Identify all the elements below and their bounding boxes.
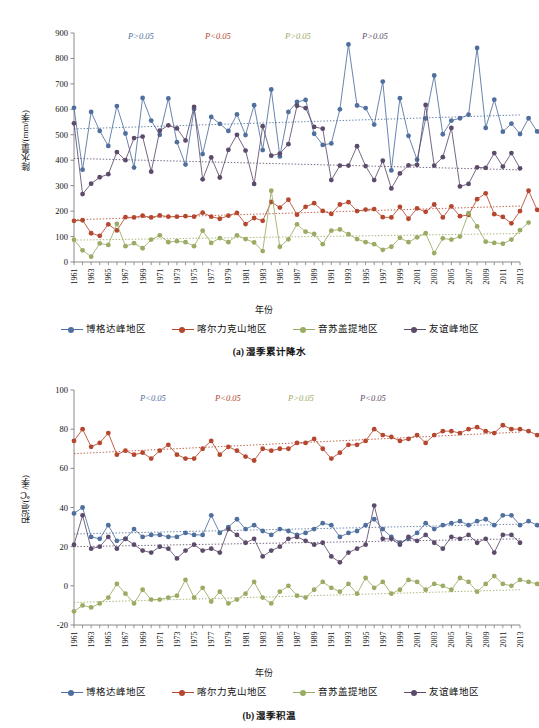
data-point	[149, 118, 154, 123]
x-tick-label: 2009	[482, 632, 491, 648]
data-point	[175, 140, 180, 145]
data-point	[286, 446, 291, 451]
data-point	[217, 121, 222, 126]
x-tick-label: 1965	[104, 269, 113, 285]
data-point	[346, 42, 351, 47]
data-point	[355, 103, 360, 108]
legend-marker-icon	[293, 688, 315, 697]
data-point	[123, 448, 128, 453]
data-point	[209, 155, 214, 160]
data-point	[140, 134, 145, 139]
data-point	[149, 237, 154, 242]
x-tick-label: 2011	[499, 269, 508, 285]
y-tick-label: 600	[55, 104, 68, 114]
data-point	[175, 593, 180, 598]
data-point	[492, 241, 497, 246]
data-point	[500, 423, 505, 428]
data-point	[89, 546, 94, 551]
x-tick-label: 1999	[396, 632, 405, 648]
data-point	[500, 164, 505, 169]
data-point	[346, 550, 351, 555]
data-point	[389, 186, 394, 191]
x-tick-label: 2003	[430, 632, 439, 648]
data-point	[320, 143, 325, 148]
data-point	[303, 204, 308, 209]
data-point	[149, 550, 154, 555]
data-point	[166, 546, 171, 551]
data-point	[157, 233, 162, 238]
data-point	[286, 583, 291, 588]
x-tick-label: 1981	[242, 632, 251, 648]
data-point	[475, 197, 480, 202]
data-point	[72, 218, 77, 223]
x-tick-label: 1967	[121, 269, 130, 285]
data-point	[252, 103, 257, 108]
legend-item-1[interactable]: 博格达峰地区	[61, 688, 146, 698]
data-point	[535, 581, 539, 586]
series-3	[72, 188, 531, 259]
x-tick-label: 1995	[362, 269, 371, 285]
data-point	[320, 521, 325, 526]
data-point	[166, 96, 171, 101]
data-point	[415, 206, 420, 211]
data-point	[346, 581, 351, 586]
legend-item-3[interactable]: 音苏盖提地区	[293, 688, 378, 698]
x-tick-label: 1979	[224, 269, 233, 285]
data-point	[235, 533, 240, 538]
chart-b-pvalue-kaerlike: P<0.05	[215, 393, 241, 403]
data-point	[114, 581, 119, 586]
x-tick-label: 1963	[87, 269, 96, 285]
data-point	[243, 133, 248, 138]
legend-item-4[interactable]: 友谊峰地区	[404, 688, 479, 698]
legend-item-4[interactable]: 友谊峰地区	[404, 325, 479, 335]
y-tick-label: 800	[55, 53, 68, 63]
data-point	[423, 533, 428, 538]
legend-item-2[interactable]: 喀尔力克山地区	[172, 325, 267, 335]
data-point	[509, 533, 514, 538]
data-point	[295, 103, 300, 108]
data-point	[458, 519, 463, 524]
legend-item-1[interactable]: 博格达峰地区	[61, 325, 146, 335]
data-point	[192, 244, 197, 249]
legend-marker-icon	[404, 325, 426, 334]
y-tick-label: 100	[55, 232, 68, 242]
data-point	[269, 548, 274, 553]
data-point	[363, 542, 368, 547]
data-point	[320, 446, 325, 451]
data-point	[415, 162, 420, 167]
data-point	[226, 213, 231, 218]
data-point	[398, 542, 403, 547]
data-point	[260, 595, 265, 600]
figure-panel-a: 0100200300400500600700800900196119631965…	[0, 0, 539, 360]
chart-a-legend: 博格达峰地区喀尔力克山地区音苏盖提地区友谊峰地区	[0, 325, 539, 335]
chart-b-plot-area: -200204060801001961196319651967196919711…	[0, 360, 539, 682]
data-point	[114, 452, 119, 457]
data-point	[432, 251, 437, 256]
data-point	[526, 519, 531, 524]
y-tick-label: 80	[60, 424, 69, 434]
x-tick-label: 1993	[344, 269, 353, 285]
data-point	[97, 233, 102, 238]
data-point	[140, 587, 145, 592]
data-point	[449, 587, 454, 592]
data-point	[114, 104, 119, 109]
chart-b-caption: (b) 湿季积温	[0, 708, 539, 722]
legend-item-2[interactable]: 喀尔力克山地区	[172, 688, 267, 698]
data-point	[157, 128, 162, 133]
legend-item-3[interactable]: 音苏盖提地区	[293, 325, 378, 335]
data-point	[243, 222, 248, 227]
data-point	[235, 233, 240, 238]
data-point	[114, 546, 119, 551]
data-point	[440, 429, 445, 434]
data-point	[380, 158, 385, 163]
data-point	[483, 239, 488, 244]
data-point	[209, 241, 214, 246]
data-point	[80, 167, 85, 172]
x-tick-label: 1969	[139, 269, 148, 285]
data-point	[380, 247, 385, 252]
data-point	[329, 554, 334, 559]
data-point	[466, 533, 471, 538]
data-point	[372, 122, 377, 127]
data-point	[518, 540, 523, 545]
data-point	[440, 155, 445, 160]
